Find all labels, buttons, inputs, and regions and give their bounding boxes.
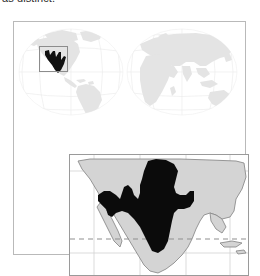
locator-box — [39, 46, 68, 72]
caption-strip: as distinct. — [0, 0, 260, 9]
detail-map-svg — [70, 155, 248, 275]
caption-text: as distinct. — [2, 0, 55, 5]
detail-inset-map — [69, 154, 249, 276]
